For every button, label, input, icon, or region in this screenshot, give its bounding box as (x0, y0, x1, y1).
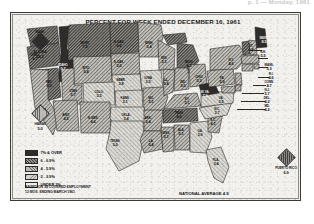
alaska-swatch (31, 32, 49, 50)
legend-row: 7% & OVER (25, 149, 99, 156)
legend-swatch (25, 174, 38, 180)
leader-line (242, 93, 264, 94)
leader-line (258, 77, 269, 78)
legend-label: 2 - 3.9% (41, 174, 55, 179)
map-plate: PERCENT FOR WEEK ENDED DECEMBER 16, 1961 (10, 12, 301, 201)
legend-swatch (25, 150, 38, 156)
map-footnote: BASED ON 38 COVERED EMPLOYMENT 12 MOS. E… (25, 185, 135, 194)
hawaii-swatch (31, 104, 49, 122)
puerto-rico-swatch (277, 148, 295, 166)
legend-row: 4 - 5.9% (25, 165, 99, 172)
puerto-rico-value: 6.9 (269, 170, 301, 175)
inset-hawaii: HAWAII 5.0 (23, 107, 57, 131)
legend-row: 6 - 6.9% (25, 157, 99, 164)
legend-row: 2 - 3.9% (25, 173, 99, 180)
leader-line (241, 101, 265, 102)
leader-line (259, 67, 268, 68)
map-legend: 7% & OVER6 - 6.9%4 - 5.9%2 - 3.9%UNDER 2… (25, 149, 99, 189)
legend-swatch (25, 158, 38, 164)
footnote-line-2: 12 MOS. ENDING MARCH 1961 (25, 190, 135, 195)
leader-line (258, 58, 268, 59)
legend-label: 4 - 5.9% (41, 166, 55, 171)
hawaii-value: 5.0 (23, 126, 57, 131)
national-average-label: NATIONAL AVERAGE 4.9 (179, 191, 229, 196)
alaska-value: 14.2 (23, 54, 57, 59)
legend-label: 7% & OVER (41, 150, 62, 155)
inset-puerto-rico: PUERTO RICO 6.9 (269, 151, 301, 175)
leader-line (253, 85, 266, 86)
inset-alaska: ALASKA 14.2 (23, 35, 57, 59)
legend-label: 6 - 6.9% (41, 158, 55, 163)
page-header-caption: p. 1 — Monday, 1961 (160, 0, 310, 10)
leader-line (250, 50, 262, 51)
legend-swatch (25, 166, 38, 172)
leader-line (237, 109, 265, 110)
